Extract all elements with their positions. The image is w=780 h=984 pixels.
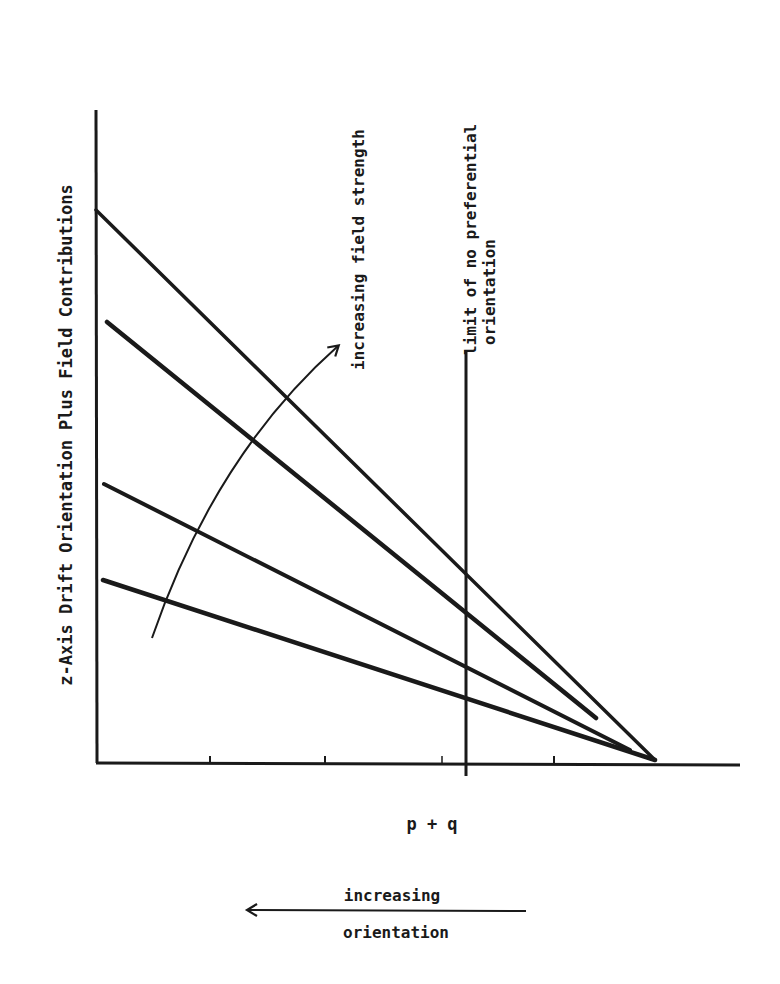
y-axis (96, 110, 97, 763)
left-arrow-icon (248, 910, 526, 911)
field-line-2 (107, 322, 596, 718)
orientation-arrow-label-bottom: orientation (343, 923, 449, 942)
limit-label-line2: orientation (480, 239, 499, 345)
x-axis (96, 763, 740, 765)
diagram: z-Axis Drift Orientation Plus Field Cont… (0, 0, 780, 984)
field-line-4 (103, 580, 655, 760)
field-line-3 (104, 484, 630, 750)
curved-arrow-icon (152, 346, 338, 638)
orientation-arrow-label-top: increasing (344, 886, 440, 905)
x-axis-label: p + q (406, 814, 457, 834)
orientation-arrow (248, 910, 526, 911)
field-line-1 (96, 210, 655, 760)
field-strength-arrow (152, 346, 338, 638)
y-axis-label: z-Axis Drift Orientation Plus Field Cont… (56, 184, 76, 686)
x-axis-ticks (210, 756, 554, 763)
field-strength-label: increasing field strength (349, 129, 368, 370)
limit-label-line1: limit of no preferential (461, 124, 480, 355)
field-lines (96, 210, 655, 760)
